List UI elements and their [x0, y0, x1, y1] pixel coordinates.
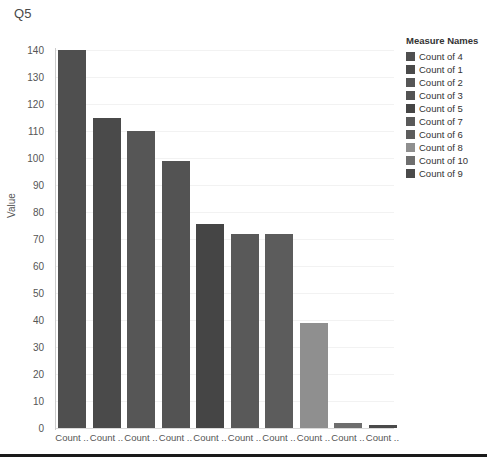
- legend-title: Measure Names: [406, 35, 486, 46]
- x-axis-tick-labels: Count ..Count ..Count ..Count ..Count ..…: [56, 432, 394, 448]
- legend-item[interactable]: Count of 2: [406, 76, 486, 89]
- legend-swatch-icon: [406, 169, 415, 178]
- legend-item[interactable]: Count of 5: [406, 102, 486, 115]
- legend-item[interactable]: Count of 7: [406, 115, 486, 128]
- plot-area: [56, 50, 394, 428]
- legend-swatch-icon: [406, 52, 415, 61]
- legend-swatch-icon: [406, 104, 415, 113]
- bar-column[interactable]: [127, 50, 155, 428]
- legend-item-label: Count of 1: [419, 64, 463, 75]
- legend: Measure Names Count of 4Count of 1Count …: [406, 35, 486, 180]
- legend-item-label: Count of 6: [419, 129, 463, 140]
- y-axis-tick: 80: [33, 207, 44, 218]
- bar[interactable]: [231, 234, 259, 428]
- legend-item[interactable]: Count of 1: [406, 63, 486, 76]
- bar[interactable]: [196, 224, 224, 428]
- bar-column[interactable]: [231, 50, 259, 428]
- bar[interactable]: [369, 425, 397, 428]
- y-axis-tick: 100: [27, 153, 44, 164]
- bar[interactable]: [265, 234, 293, 428]
- bar-column[interactable]: [265, 50, 293, 428]
- legend-swatch-icon: [406, 130, 415, 139]
- legend-swatch-icon: [406, 143, 415, 152]
- bar-column[interactable]: [334, 50, 362, 428]
- legend-item[interactable]: Count of 8: [406, 141, 486, 154]
- y-axis-tick-labels: 0102030405060708090100110120130140: [0, 0, 52, 465]
- gridline: [56, 428, 394, 429]
- legend-item-label: Count of 9: [419, 168, 463, 179]
- legend-item[interactable]: Count of 9: [406, 167, 486, 180]
- legend-item-label: Count of 2: [419, 77, 463, 88]
- legend-swatch-icon: [406, 78, 415, 87]
- legend-swatch-icon: [406, 156, 415, 165]
- bar[interactable]: [58, 50, 86, 428]
- legend-item[interactable]: Count of 3: [406, 89, 486, 102]
- y-axis-tick: 130: [27, 72, 44, 83]
- bar[interactable]: [162, 161, 190, 428]
- legend-item-label: Count of 8: [419, 142, 463, 153]
- y-axis-tick: 20: [33, 369, 44, 380]
- bar-column[interactable]: [300, 50, 328, 428]
- y-axis-tick: 110: [28, 126, 44, 137]
- x-axis-tick: Count ..: [363, 432, 403, 443]
- bar-column[interactable]: [93, 50, 121, 428]
- y-axis-tick: 70: [33, 234, 44, 245]
- legend-item-label: Count of 4: [419, 51, 463, 62]
- bar[interactable]: [127, 131, 155, 428]
- bar[interactable]: [93, 118, 121, 429]
- legend-item-label: Count of 7: [419, 116, 463, 127]
- y-axis-tick: 40: [33, 315, 44, 326]
- legend-item-label: Count of 10: [419, 155, 468, 166]
- legend-swatch-icon: [406, 117, 415, 126]
- y-axis-tick: 90: [33, 180, 44, 191]
- legend-item[interactable]: Count of 4: [406, 50, 486, 63]
- bar-column[interactable]: [369, 50, 397, 428]
- bar-column[interactable]: [196, 50, 224, 428]
- legend-item[interactable]: Count of 6: [406, 128, 486, 141]
- y-axis-tick: 120: [27, 99, 44, 110]
- bar-column[interactable]: [58, 50, 86, 428]
- legend-item-label: Count of 5: [419, 103, 463, 114]
- legend-swatch-icon: [406, 91, 415, 100]
- legend-swatch-icon: [406, 65, 415, 74]
- y-axis-tick: 60: [33, 261, 44, 272]
- legend-item-label: Count of 3: [419, 90, 463, 101]
- y-axis-tick: 50: [33, 288, 44, 299]
- bottom-divider: [0, 454, 487, 457]
- bar-column[interactable]: [162, 50, 190, 428]
- bar[interactable]: [334, 423, 362, 428]
- y-axis-tick: 0: [38, 423, 44, 434]
- y-axis-tick: 30: [33, 342, 44, 353]
- y-axis-tick: 140: [27, 45, 44, 56]
- bar[interactable]: [300, 323, 328, 428]
- y-axis-tick: 10: [33, 396, 44, 407]
- legend-items: Count of 4Count of 1Count of 2Count of 3…: [406, 50, 486, 180]
- legend-item[interactable]: Count of 10: [406, 154, 486, 167]
